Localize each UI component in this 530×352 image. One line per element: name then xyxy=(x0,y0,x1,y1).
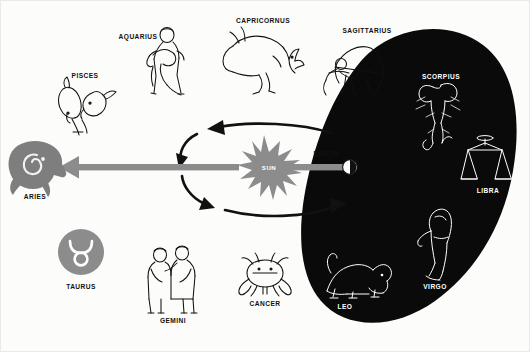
sign-cancer: CANCER xyxy=(239,253,291,307)
sign-taurus-label: TAURUS xyxy=(66,283,96,290)
sign-gemini-label: GEMINI xyxy=(160,317,186,324)
sign-libra-label: LIBRA xyxy=(477,187,499,194)
sign-pisces: PISCES xyxy=(59,72,117,135)
sign-aquarius: AQUARIUS xyxy=(119,28,184,96)
sun-label: SUN xyxy=(262,164,276,171)
sign-virgo-label: VIRGO xyxy=(423,283,447,290)
sightline-beam xyxy=(59,156,347,179)
sign-leo-label: LEO xyxy=(338,303,353,310)
sign-capricornus: CAPRICORNUS xyxy=(223,17,304,94)
sign-gemini: GEMINI xyxy=(148,246,197,324)
sign-taurus: TAURUS xyxy=(58,229,104,290)
sign-cancer-label: CANCER xyxy=(250,300,281,307)
sign-pisces-label: PISCES xyxy=(72,72,99,79)
earth-label: EARTH xyxy=(314,150,339,157)
sign-aries-label: ARIES xyxy=(24,193,47,200)
sign-capricornus-label: CAPRICORNUS xyxy=(236,17,290,24)
zodiac-orbit-diagram: SUN EARTH ARIES xyxy=(1,1,530,352)
sign-sagittarius-label: SAGITTARIUS xyxy=(342,27,391,34)
sign-aquarius-label: AQUARIUS xyxy=(119,33,158,41)
sign-scorpius-label: SCORPIUS xyxy=(422,73,460,80)
diagram-canvas: SUN EARTH ARIES xyxy=(0,0,530,352)
sign-aries: ARIES xyxy=(9,141,67,200)
